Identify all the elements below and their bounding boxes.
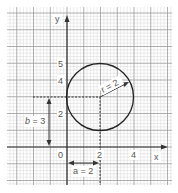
b-arrow-down-icon [47,140,52,146]
y-tick-5: 5 [58,59,63,69]
x-tick-2: 2 [97,150,102,160]
a-arrow-left-icon [68,161,74,166]
a-label: a = 2 [73,166,93,176]
x-tick-4: 4 [131,150,136,160]
minor-grid [7,7,172,185]
origin-label: 0 [58,150,63,160]
y-axis-arrow-icon [65,15,70,22]
a-arrow-right-icon [93,161,99,166]
circle-graph-diagram: y x 5 4 2 0 2 4 b = 3 a = 2 r = 2 [0,0,178,193]
y-tick-2: 2 [58,109,63,119]
x-axis-label: x [154,152,159,162]
y-axis-label: y [55,14,60,24]
y-tick-4: 4 [58,76,63,86]
x-axis-arrow-icon [161,145,168,150]
b-arrow-up-icon [47,98,52,104]
b-label: b = 3 [25,116,45,126]
